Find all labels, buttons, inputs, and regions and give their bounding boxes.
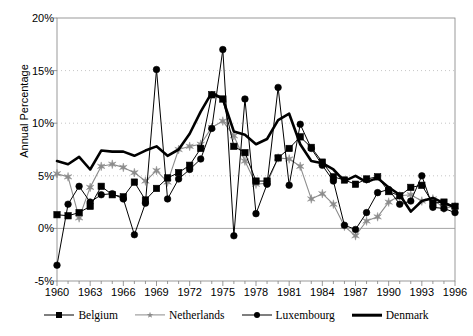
data-point-marker: [407, 198, 414, 205]
x-tick-label: 1975: [211, 286, 235, 298]
legend-label: Belgium: [78, 309, 118, 321]
data-point-marker: [242, 96, 249, 103]
x-tick-label: 1987: [343, 286, 367, 298]
data-point-marker: [76, 183, 83, 190]
data-point-marker: [175, 169, 181, 175]
data-point-marker: [164, 196, 171, 203]
plot-frame: [57, 18, 455, 281]
data-point-marker: [131, 231, 138, 238]
line-chart: Annual Percentage 20%15%10%5%0%-5% 19601…: [0, 0, 473, 336]
data-point-marker: [408, 184, 414, 190]
legend-item-denmark: Denmark: [352, 309, 429, 321]
data-point-marker: [253, 210, 260, 217]
data-point-marker: [352, 181, 358, 187]
legend-swatch: [44, 309, 74, 321]
data-point-marker: [297, 121, 304, 128]
data-point-marker: [131, 179, 137, 185]
y-tick-label: 15%: [8, 65, 54, 77]
data-point-marker: [87, 203, 93, 209]
data-point-marker: [208, 125, 215, 132]
x-tick-label: 1996: [443, 286, 467, 298]
y-tick-label: 20%: [8, 12, 54, 24]
legend-swatch: [242, 309, 272, 321]
data-point-marker: [65, 213, 71, 219]
legend-label: Luxembourg: [276, 309, 335, 321]
data-point-marker: [120, 194, 126, 200]
data-point-marker: [54, 262, 61, 269]
legend-label: Netherlands: [169, 309, 225, 321]
data-point-marker: [441, 205, 448, 212]
data-point-marker: [109, 192, 115, 198]
data-point-marker: [186, 162, 192, 168]
x-tick-label: 1981: [277, 286, 301, 298]
data-point-marker: [286, 182, 293, 189]
data-point-marker: [286, 145, 292, 151]
data-point-marker: [175, 176, 182, 183]
data-point-marker: [419, 182, 425, 188]
data-point-marker: [275, 155, 281, 161]
data-point-marker: [164, 175, 170, 181]
data-point-marker: [231, 232, 238, 239]
x-tick-label: 1978: [244, 286, 268, 298]
data-point-marker: [153, 66, 160, 73]
data-point-marker: [198, 145, 204, 151]
data-point-marker: [352, 226, 359, 233]
x-tick-label: 1990: [376, 286, 400, 298]
data-point-marker: [308, 144, 314, 150]
data-point-marker: [242, 149, 248, 155]
legend-line: [352, 314, 382, 317]
legend-item-belgium: Belgium: [44, 309, 118, 321]
y-tick-label: 0%: [8, 222, 54, 234]
x-tick-label: 1984: [310, 286, 334, 298]
data-point-marker: [275, 84, 282, 91]
x-tick-label: 1966: [111, 286, 135, 298]
plot-area: [0, 0, 473, 336]
data-point-marker: [98, 183, 104, 189]
data-point-marker: [341, 222, 348, 229]
data-point-marker: [76, 209, 82, 215]
legend-swatch: [352, 309, 382, 321]
x-tick-label: 1993: [410, 286, 434, 298]
data-point-marker: [153, 185, 159, 191]
x-tick-label: 1972: [177, 286, 201, 298]
legend-marker-circle-icon: [254, 312, 260, 318]
data-point-marker: [430, 200, 436, 206]
y-tick-label: 10%: [8, 117, 54, 129]
chart-legend: BelgiumNetherlandsLuxembourgDenmark: [0, 304, 473, 326]
x-tick-label: 1960: [45, 286, 69, 298]
data-point-marker: [363, 209, 370, 216]
legend-item-netherlands: Netherlands: [135, 309, 225, 321]
x-tick-label: 1969: [144, 286, 168, 298]
legend-swatch: [135, 309, 165, 321]
data-point-marker: [253, 178, 259, 184]
data-point-marker: [54, 212, 60, 218]
data-point-marker: [98, 191, 105, 198]
data-point-marker: [220, 46, 227, 53]
x-tick-label: 1963: [78, 286, 102, 298]
data-point-marker: [231, 143, 237, 149]
legend-label: Denmark: [386, 309, 429, 321]
data-point-marker: [374, 189, 381, 196]
data-point-marker: [142, 197, 148, 203]
y-tick-label: 5%: [8, 170, 54, 182]
legend-marker-square-icon: [56, 312, 62, 318]
data-point-marker: [396, 201, 403, 208]
legend-item-luxembourg: Luxembourg: [242, 309, 335, 321]
data-point-marker: [65, 201, 72, 208]
data-point-marker: [452, 209, 459, 216]
data-point-marker: [419, 173, 426, 180]
data-point-marker: [264, 178, 270, 184]
data-point-marker: [197, 156, 204, 163]
data-point-marker: [330, 174, 336, 180]
